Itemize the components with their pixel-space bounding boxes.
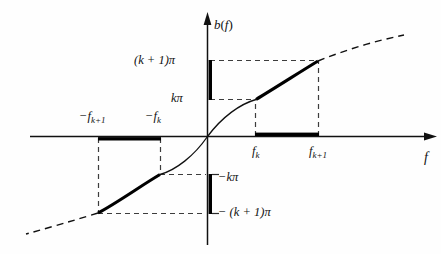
emphasis-bar-x-positive xyxy=(255,133,319,136)
x-tick-neg-fk-sub: k xyxy=(157,115,161,125)
curve-thin-negative xyxy=(160,137,208,175)
y-tick-neg-kplus1-pi-symbol: π xyxy=(264,205,270,219)
x-tick-neg-fkplus1-sub: k+1 xyxy=(91,115,106,125)
x-tick-label-neg-fk: −fk xyxy=(145,110,161,125)
curve-thin-positive xyxy=(208,100,257,137)
x-tick-label-neg-fkplus1: −fk+1 xyxy=(79,110,106,125)
curve-bold-negative xyxy=(98,175,160,214)
x-tick-label-fkplus1: fk+1 xyxy=(309,145,327,160)
y-tick-neg-kplus1-pi-plain: − (k + 1) xyxy=(218,205,264,219)
emphasis-bar-y-positive xyxy=(209,60,212,100)
y-tick-label-neg-kplus1-pi: − (k + 1)π xyxy=(218,206,271,219)
curve-tail-positive xyxy=(318,35,404,61)
y-tick-label-k-pi: kπ xyxy=(171,92,183,105)
y-axis-arrowhead xyxy=(204,12,212,25)
y-axis-label: b(f) xyxy=(214,18,233,31)
y-tick-k-pi-symbol: π xyxy=(177,91,183,105)
curve-tail-negative xyxy=(26,213,98,234)
x-tick-neg-fkplus1-base: −f xyxy=(79,109,91,123)
x-tick-label-fk: fk xyxy=(252,145,259,160)
x-tick-neg-fk-base: −f xyxy=(145,109,157,123)
y-axis-label-close-paren: ) xyxy=(228,17,232,32)
y-tick-label-neg-k-pi: −kπ xyxy=(218,171,238,184)
x-axis-label: f xyxy=(424,151,428,165)
emphasis-bar-x-negative xyxy=(98,137,161,140)
figure-container: b(f) f (k + 1)π kπ −kπ − (k + 1)π −fk+1 … xyxy=(0,0,441,254)
emphasis-bar-y-negative xyxy=(209,174,212,214)
y-tick-label-kplus1-pi: (k + 1)π xyxy=(134,54,175,67)
curve-tails-group xyxy=(26,35,404,234)
y-tick-kplus1-pi-plain: (k + 1) xyxy=(134,53,169,67)
curve-bold-positive xyxy=(256,61,318,100)
x-axis-arrowhead xyxy=(424,133,437,141)
x-tick-fkplus1-sub: k+1 xyxy=(312,150,327,160)
y-tick-kplus1-pi-symbol: π xyxy=(169,53,175,67)
x-tick-fk-sub: k xyxy=(255,150,259,160)
